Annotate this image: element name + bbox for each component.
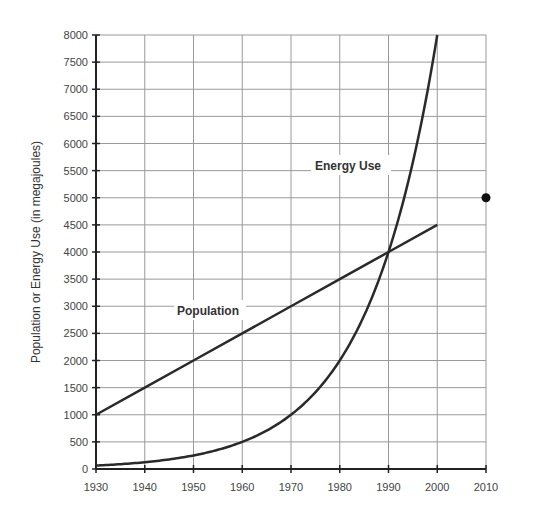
x-tick-label: 1950 bbox=[181, 481, 205, 493]
y-tick-label: 7500 bbox=[64, 56, 88, 68]
y-tick-label: 1000 bbox=[64, 409, 88, 421]
energy-use-label: Energy Use bbox=[315, 159, 381, 173]
series-lines bbox=[96, 35, 437, 466]
y-tick-label: 5500 bbox=[64, 165, 88, 177]
y-tick-label: 0 bbox=[82, 463, 88, 475]
annotation-point bbox=[482, 193, 491, 202]
y-tick-label: 2500 bbox=[64, 327, 88, 339]
x-tick-label: 1960 bbox=[230, 481, 254, 493]
y-tick-label: 1500 bbox=[64, 382, 88, 394]
marker-dot bbox=[482, 193, 491, 202]
grid bbox=[96, 35, 486, 469]
population-line bbox=[96, 225, 437, 415]
y-tick-label: 3000 bbox=[64, 300, 88, 312]
y-tick-label: 8000 bbox=[64, 29, 88, 41]
y-tick-label: 2000 bbox=[64, 355, 88, 367]
x-tick-label: 2000 bbox=[425, 481, 449, 493]
y-tick-label: 4500 bbox=[64, 219, 88, 231]
x-tick-label: 1980 bbox=[328, 481, 352, 493]
y-tick-label: 7000 bbox=[64, 83, 88, 95]
y-tick-label: 500 bbox=[70, 436, 88, 448]
y-tick-label: 6000 bbox=[64, 138, 88, 150]
y-axis-title: Population or Energy Use (in megajoules) bbox=[29, 141, 43, 363]
energy-use-curve bbox=[96, 35, 437, 466]
x-tick-label: 1990 bbox=[376, 481, 400, 493]
y-tick-label: 6500 bbox=[64, 110, 88, 122]
chart: 0500100015002000250030003500400045005000… bbox=[0, 0, 534, 526]
x-tick-label: 1970 bbox=[279, 481, 303, 493]
y-tick-label: 4000 bbox=[64, 246, 88, 258]
y-tick-label: 3500 bbox=[64, 273, 88, 285]
x-tick-label: 1940 bbox=[133, 481, 157, 493]
x-tick-label: 2010 bbox=[474, 481, 498, 493]
x-tick-label: 1930 bbox=[84, 481, 108, 493]
y-tick-label: 5000 bbox=[64, 192, 88, 204]
population-label: Population bbox=[177, 304, 239, 318]
